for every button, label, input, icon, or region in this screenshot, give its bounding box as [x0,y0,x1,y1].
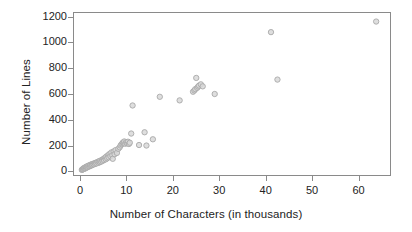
data-point [157,94,162,99]
x-axis-tick [173,176,174,181]
y-axis-tick-label: 400 [21,113,67,125]
scatter-plot-figure: Number of Lines Number of Characters (in… [0,0,412,232]
data-point [200,84,205,89]
x-axis-label: Number of Characters (in thousands) [0,208,412,220]
y-axis-tick-label: 200 [21,139,67,151]
x-axis-tick-label: 0 [60,184,100,196]
x-axis-tick-label: 40 [246,184,286,196]
y-axis-tick-label: 1000 [21,35,67,47]
data-point [144,143,149,148]
x-axis-tick [359,176,360,181]
x-axis-tick [312,176,313,181]
data-point [136,142,141,147]
x-axis-tick-label: 30 [199,184,239,196]
x-axis-tick-label: 60 [339,184,379,196]
y-axis-tick-label: 600 [21,87,67,99]
data-point [373,19,378,24]
x-axis-tick [219,176,220,181]
data-point [194,75,199,80]
y-axis-tick-labels: 020040060080010001200 [19,12,67,176]
x-axis-ticks [73,176,391,182]
data-point [129,131,134,136]
y-axis-tick-label: 800 [21,61,67,73]
x-axis-tick [80,176,81,181]
data-point [130,103,135,108]
data-point [275,77,280,82]
x-axis-tick [126,176,127,181]
data-points-layer [74,13,390,175]
y-axis-tick-label: 1200 [21,10,67,22]
x-axis-tick-label: 10 [106,184,146,196]
data-point [150,137,155,142]
x-axis-tick-label: 50 [292,184,332,196]
data-point [177,98,182,103]
data-point [142,130,147,135]
x-axis-tick-labels: 0102030405060 [73,184,391,200]
data-point [212,91,217,96]
x-axis-tick-label: 20 [153,184,193,196]
data-point [268,29,273,34]
y-axis-tick-label: 0 [21,164,67,176]
plot-area [73,12,391,176]
x-axis-tick [266,176,267,181]
data-point [127,140,132,145]
